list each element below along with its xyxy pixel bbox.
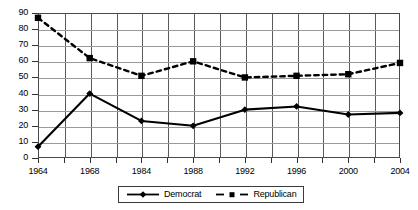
- gridline-horizontal: [39, 30, 399, 31]
- legend-label-republican: Republican: [253, 190, 296, 199]
- x-axis-tick-mark: [374, 158, 375, 163]
- legend-item-democrat[interactable]: Democrat: [126, 190, 201, 199]
- y-axis-tick-mark: [32, 142, 38, 143]
- line-chart: 0102030405060708090 19641968198419881992…: [0, 0, 418, 210]
- gridline-vertical: [194, 14, 195, 157]
- gridline-vertical: [117, 14, 118, 157]
- y-axis-tick-label: 30: [18, 105, 28, 114]
- x-axis-tick-label: 1968: [80, 167, 99, 176]
- x-axis-tick-label: 1964: [28, 167, 47, 176]
- gridline-horizontal: [39, 78, 399, 79]
- y-axis-tick-mark: [32, 110, 38, 111]
- legend-label-democrat: Democrat: [164, 190, 201, 199]
- x-axis-tick-mark: [271, 158, 272, 163]
- y-axis-tick-label: 80: [18, 24, 28, 33]
- x-axis-tick-mark: [116, 158, 117, 163]
- y-axis-tick-label: 70: [18, 40, 28, 49]
- y-axis-tick-label: 0: [23, 153, 28, 162]
- gridline-vertical: [272, 14, 273, 157]
- x-axis-tick-mark: [297, 158, 298, 163]
- legend-swatch-republican: [215, 190, 249, 199]
- y-axis-tick-mark: [32, 45, 38, 46]
- legend-item-republican[interactable]: Republican: [215, 190, 296, 199]
- gridline-vertical: [65, 14, 66, 157]
- gridline-vertical: [349, 14, 350, 157]
- y-axis-tick-label: 50: [18, 72, 28, 81]
- legend-swatch-democrat: [126, 190, 160, 199]
- gridline-vertical: [142, 14, 143, 157]
- y-axis-tick-mark: [32, 158, 38, 159]
- gridline-horizontal: [39, 111, 399, 112]
- x-axis-tick-label: 1988: [184, 167, 203, 176]
- y-axis-tick-label: 90: [18, 8, 28, 17]
- y-axis-tick-label: 60: [18, 56, 28, 65]
- y-axis-tick-mark: [32, 29, 38, 30]
- gridline-vertical: [323, 14, 324, 157]
- y-axis-tick-mark: [32, 126, 38, 127]
- gridline-vertical: [220, 14, 221, 157]
- y-axis-tick-mark: [32, 13, 38, 14]
- y-axis-tick-label: 20: [18, 121, 28, 130]
- gridline-vertical: [375, 14, 376, 157]
- gridline-horizontal: [39, 95, 399, 96]
- y-axis-tick-mark: [32, 94, 38, 95]
- x-axis-tick-label: 2004: [390, 167, 409, 176]
- gridline-vertical: [91, 14, 92, 157]
- gridline-horizontal: [39, 127, 399, 128]
- x-axis-tick-mark: [193, 158, 194, 163]
- x-axis-tick-label: 1984: [132, 167, 151, 176]
- gridline-horizontal: [39, 62, 399, 63]
- x-axis-tick-mark: [400, 158, 401, 163]
- gridline-horizontal: [39, 46, 399, 47]
- gridline-vertical: [246, 14, 247, 157]
- x-axis-tick-mark: [348, 158, 349, 163]
- gridline-vertical: [168, 14, 169, 157]
- x-axis-tick-mark: [167, 158, 168, 163]
- x-axis-tick-label: 1996: [287, 167, 306, 176]
- x-axis-tick-mark: [322, 158, 323, 163]
- x-axis-tick-mark: [64, 158, 65, 163]
- y-axis-tick-mark: [32, 77, 38, 78]
- y-axis-tick-label: 10: [18, 137, 28, 146]
- gridline-horizontal: [39, 143, 399, 144]
- x-axis-tick-mark: [90, 158, 91, 163]
- x-axis-tick-label: 2000: [339, 167, 358, 176]
- x-axis-tick-label: 1992: [235, 167, 254, 176]
- y-axis-tick-label: 40: [18, 89, 28, 98]
- gridline-vertical: [298, 14, 299, 157]
- x-axis-tick-mark: [141, 158, 142, 163]
- y-axis: 0102030405060708090: [0, 0, 36, 210]
- x-axis-tick-mark: [38, 158, 39, 163]
- x-axis-tick-mark: [219, 158, 220, 163]
- chart-legend: Democrat Republican: [118, 186, 304, 203]
- plot-area: [38, 13, 400, 158]
- y-axis-tick-mark: [32, 61, 38, 62]
- x-axis-tick-mark: [245, 158, 246, 163]
